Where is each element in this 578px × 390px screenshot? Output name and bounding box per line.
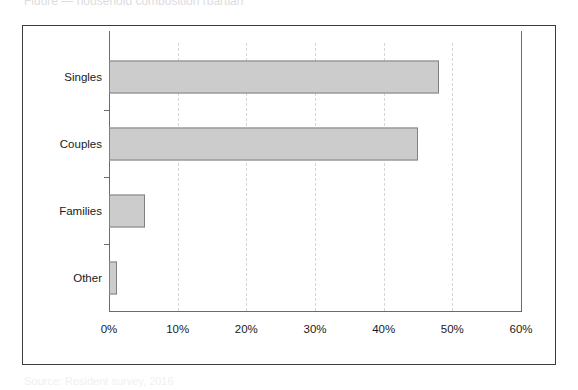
plot-right-border	[521, 31, 522, 312]
bar-row: Families	[109, 177, 521, 244]
category-label-singles: Singles	[64, 70, 102, 83]
bar-row: Singles	[109, 43, 521, 110]
x-axis-label-30: 30%	[303, 323, 326, 336]
bar-row: Couples	[109, 110, 521, 177]
x-axis-line	[109, 311, 522, 312]
category-label-families: Families	[59, 204, 102, 217]
bar-other[interactable]	[109, 261, 117, 294]
page-caption-bottom: Source: Resident survey, 2016	[24, 376, 174, 389]
category-label-couples: Couples	[60, 137, 102, 150]
bar-singles[interactable]	[109, 60, 439, 93]
page-caption-top: Figure — household composition (partial)	[24, 0, 243, 5]
x-axis-label-10: 10%	[166, 323, 189, 336]
plot-area: Singles Couples Families Other 0% 10% 20…	[109, 43, 521, 311]
bar-row: Other	[109, 244, 521, 311]
x-axis-label-20: 20%	[235, 323, 258, 336]
x-axis-label-60: 60%	[509, 323, 532, 336]
x-axis-label-0: 0%	[101, 323, 118, 336]
category-label-other: Other	[73, 271, 102, 284]
bar-couples[interactable]	[109, 127, 418, 160]
chart-frame: Singles Couples Families Other 0% 10% 20…	[22, 25, 556, 365]
x-axis-label-50: 50%	[441, 323, 464, 336]
x-axis-label-40: 40%	[372, 323, 395, 336]
bar-families[interactable]	[109, 194, 145, 227]
